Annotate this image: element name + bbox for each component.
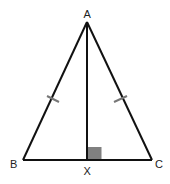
segment-ac <box>87 22 152 160</box>
label-b: B <box>10 158 17 170</box>
triangle-diagram: A B C X <box>0 0 170 184</box>
label-x: X <box>84 165 92 177</box>
segment-ab <box>23 22 87 160</box>
label-a: A <box>84 8 92 20</box>
right-angle-marker <box>88 147 102 160</box>
label-c: C <box>155 158 163 170</box>
